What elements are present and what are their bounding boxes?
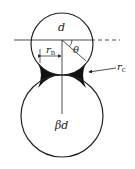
rc-pointer-arrow <box>89 68 116 72</box>
label-beta-d: βd <box>54 119 68 132</box>
angle-arc <box>70 40 73 47</box>
label-rc: rc <box>117 61 126 74</box>
label-rn: rn <box>46 44 56 57</box>
label-d: d <box>58 21 65 34</box>
two-sphere-neck-diagram: d θ rn rc βd <box>0 0 135 169</box>
label-theta: θ <box>73 44 79 55</box>
